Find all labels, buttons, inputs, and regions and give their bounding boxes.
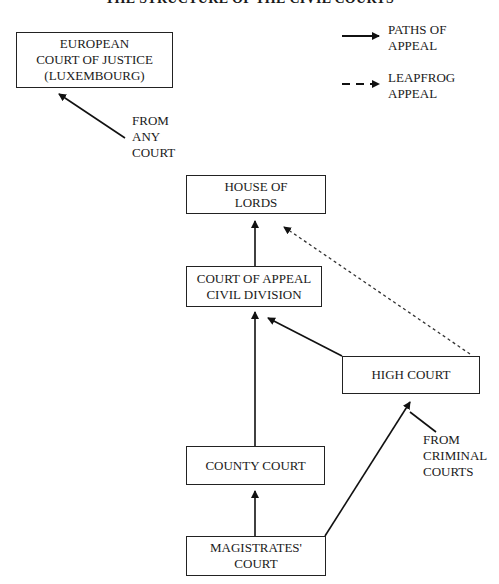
arrow-high-to-appeal bbox=[268, 318, 342, 356]
line-criminal-courts bbox=[410, 412, 436, 432]
node-high-court: HIGH COURT bbox=[342, 356, 480, 394]
node-magistrates-court: MAGISTRATES' COURT bbox=[186, 536, 326, 576]
node-county-court: COUNTY COURT bbox=[186, 446, 325, 485]
legend-dashed-label: LEAPFROG APPEAL bbox=[388, 70, 455, 102]
annotation-from-criminal-courts: FROM CRIMINAL COURTS bbox=[423, 432, 487, 480]
node-house-of-lords: HOUSE OF LORDS bbox=[186, 175, 326, 214]
arrow-any-court-to-ecj bbox=[59, 94, 125, 138]
legend-solid-label: PATHS OF APPEAL bbox=[388, 22, 446, 54]
arrow-magistrates-to-high bbox=[325, 402, 410, 536]
annotation-from-any-court: FROM ANY COURT bbox=[132, 113, 175, 161]
node-european-court-of-justice: EUROPEAN COURT OF JUSTICE (LUXEMBOURG) bbox=[16, 32, 173, 88]
node-court-of-appeal: COURT OF APPEAL CIVIL DIVISION bbox=[186, 266, 322, 307]
